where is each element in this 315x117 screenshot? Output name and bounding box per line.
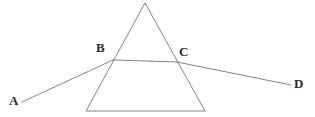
refracted-ray-bc — [113, 60, 177, 62]
point-label-d: D — [294, 77, 303, 90]
diagram-canvas — [0, 0, 315, 117]
point-label-a: A — [9, 94, 18, 107]
point-label-b: B — [96, 41, 105, 54]
emergent-ray-cd — [177, 62, 291, 85]
incident-ray-ab — [22, 60, 113, 102]
point-label-c: C — [179, 45, 188, 58]
prism-ray-diagram: A B C D — [0, 0, 315, 117]
